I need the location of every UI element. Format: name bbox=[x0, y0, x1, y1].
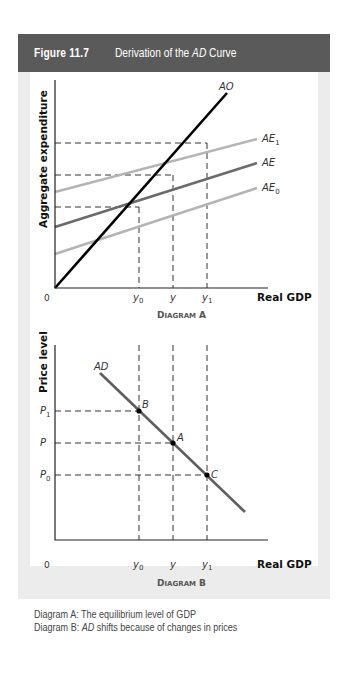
ae1-label-sub: 1 bbox=[275, 139, 279, 147]
caption-line-2-prefix: Diagram B: bbox=[34, 621, 82, 633]
ao-label: AO bbox=[218, 81, 234, 92]
cap-a-letter: A bbox=[199, 310, 206, 320]
diagram-a-tick-y: y bbox=[169, 292, 177, 303]
cap-a-rest: IAGRAM bbox=[164, 312, 196, 320]
ad-label: AD bbox=[93, 361, 109, 372]
diagram-b-caption: DIAGRAMB bbox=[157, 578, 206, 588]
diagram-b-xlabel: Real GDP bbox=[257, 558, 312, 570]
point-c-label: C bbox=[211, 469, 218, 480]
figure-caption: Diagram A: The equilibrium level of GDP … bbox=[34, 608, 237, 634]
tick-y1-sub: 1 bbox=[208, 297, 212, 305]
point-b-label: B bbox=[142, 399, 149, 410]
cap-b-rest: IAGRAM bbox=[164, 580, 196, 588]
ae1-line bbox=[55, 139, 257, 192]
caption-line-2-suffix: shifts because of changes in prices bbox=[94, 621, 237, 633]
tick-p1-sub: 1 bbox=[46, 411, 50, 419]
diagram-a: Aggregate expenditure AO AE1 AE AE0 0 y0… bbox=[37, 80, 312, 320]
cap-b-letter: B bbox=[199, 578, 206, 588]
caption-line-2-italic: AD bbox=[82, 621, 95, 633]
point-a-label: A bbox=[176, 432, 184, 443]
diagram-a-xlabel: Real GDP bbox=[257, 291, 312, 303]
tick-p1: P1 bbox=[40, 405, 51, 419]
caption-line-2: Diagram B: AD shifts because of changes … bbox=[34, 621, 237, 634]
tick-p0: P0 bbox=[40, 469, 51, 483]
ae0-label: AE0 bbox=[261, 182, 280, 196]
ae0-label-sub: 0 bbox=[275, 188, 279, 196]
diagram-a-origin: 0 bbox=[44, 293, 50, 303]
diagram-b-tick-y: y bbox=[169, 559, 177, 570]
tick-p: P bbox=[40, 437, 47, 448]
diagram-a-ylabel: Aggregate expenditure bbox=[37, 90, 49, 228]
charts-svg: .dash{stroke:#333;stroke-width:1;stroke-… bbox=[0, 0, 337, 676]
b-tick-y0-sub: 0 bbox=[139, 564, 143, 572]
cap-b-first: D bbox=[157, 578, 164, 588]
diagram-b-tick-y1: y1 bbox=[201, 559, 212, 572]
ae-label: AE bbox=[261, 157, 276, 168]
point-c bbox=[204, 472, 209, 477]
diagram-b: Price level AD B A C P1 P P0 0 y0 y y1 R… bbox=[37, 331, 312, 588]
cap-a-first: D bbox=[157, 310, 164, 320]
ae0-label-main: AE bbox=[261, 182, 276, 193]
diagram-a-tick-y1: y1 bbox=[201, 292, 212, 305]
diagram-a-caption: DIAGRAMA bbox=[157, 310, 206, 320]
ae1-label-main: AE bbox=[261, 133, 276, 144]
tick-y0-sub: 0 bbox=[139, 297, 143, 305]
point-b bbox=[136, 408, 141, 413]
diagram-a-tick-y0: y0 bbox=[132, 292, 143, 305]
ao-line bbox=[55, 93, 227, 288]
b-tick-y1-sub: 1 bbox=[208, 564, 212, 572]
ae1-label: AE1 bbox=[261, 133, 280, 147]
diagram-b-tick-y0: y0 bbox=[132, 559, 143, 572]
caption-line-1: Diagram A: The equilibrium level of GDP bbox=[34, 608, 237, 621]
tick-p0-sub: 0 bbox=[46, 475, 50, 483]
point-a bbox=[170, 440, 175, 445]
diagram-b-ylabel: Price level bbox=[37, 331, 49, 393]
ae0-line bbox=[55, 188, 257, 254]
diagram-b-origin: 0 bbox=[44, 560, 50, 570]
